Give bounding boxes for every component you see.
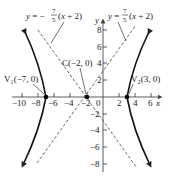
svg-text:5: 5 [52, 16, 56, 24]
hyperbola-chart: −10 −8 −6 −4 −2 0 2 4 6 x −8 −6 −4 −2 2 … [0, 0, 171, 190]
asymptote-positive [37, 25, 136, 163]
svg-text:−2: −2 [90, 109, 100, 119]
svg-text:7: 7 [123, 7, 127, 15]
vertex-v1-point [44, 95, 49, 100]
hyperbola-right-branch [127, 32, 150, 165]
svg-text:4: 4 [133, 98, 138, 108]
svg-text:y = −: y = − [25, 11, 45, 21]
svg-text:−6: −6 [48, 98, 58, 108]
y-tick-labels: −8 −6 −4 −2 2 4 6 8 y [90, 15, 102, 169]
svg-text:x: x [155, 98, 160, 108]
svg-text:−4: −4 [64, 98, 74, 108]
svg-text:−4: −4 [90, 125, 100, 135]
svg-text:(x + 2): (x + 2) [58, 11, 82, 21]
svg-text:6: 6 [97, 42, 102, 52]
svg-text:7: 7 [52, 7, 56, 15]
svg-text:−10: −10 [12, 98, 27, 108]
svg-text:5: 5 [123, 16, 127, 24]
vertex-v1-label: V₁(−7, 0) [4, 74, 38, 84]
svg-text:−6: −6 [90, 142, 100, 152]
x-tick-labels: −10 −8 −6 −4 −2 0 2 4 6 x [12, 98, 160, 108]
svg-text:2: 2 [117, 98, 122, 108]
svg-text:8: 8 [97, 25, 102, 35]
svg-text:−2: −2 [81, 98, 91, 108]
center-label: C(−2, 0) [62, 58, 93, 68]
vertex-v2-label: V₂(3, 0) [131, 74, 160, 84]
svg-text:0: 0 [96, 98, 101, 108]
svg-text:−8: −8 [90, 159, 100, 169]
svg-text:−8: −8 [31, 98, 41, 108]
center-point [85, 95, 90, 100]
svg-text:y: y [94, 15, 99, 25]
asymptote-negative-label: y = − 7 5 (x + 2) [25, 7, 82, 24]
vertex-v2-point [125, 95, 130, 100]
svg-text:y =: y = [107, 11, 119, 21]
svg-text:6: 6 [148, 98, 153, 108]
svg-text:4: 4 [97, 58, 102, 68]
svg-text:(x + 2): (x + 2) [129, 11, 153, 21]
asymptote-positive-label: y = 7 5 (x + 2) [107, 7, 153, 24]
